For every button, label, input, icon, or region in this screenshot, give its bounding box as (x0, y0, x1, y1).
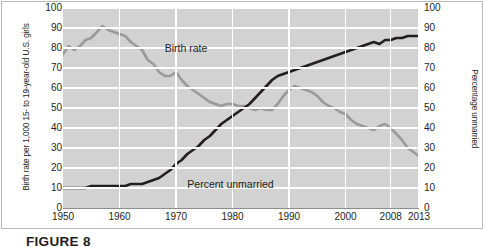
gridline-horizontal (63, 167, 419, 168)
gridline-horizontal (63, 67, 419, 68)
y-tick-left: 70 (28, 63, 62, 73)
gridline-horizontal (63, 47, 419, 48)
x-tick: 1980 (221, 212, 243, 222)
x-axis-line (63, 208, 419, 209)
y-tick-right: 50 (424, 103, 458, 113)
x-tick: 1970 (165, 212, 187, 222)
gridline-vertical (288, 8, 289, 208)
x-tick: 1990 (278, 212, 300, 222)
y-tick-right: 90 (424, 23, 458, 33)
y-tick-left: 10 (28, 183, 62, 193)
y-tick-left: 60 (28, 83, 62, 93)
gridline-horizontal (63, 87, 419, 88)
y-tick-right: 20 (424, 163, 458, 173)
y-tick-right: 30 (424, 143, 458, 153)
gridline-vertical (175, 8, 176, 208)
y-tick-right: 40 (424, 123, 458, 133)
y-axis-label-right-text: Percentage unmarried (470, 69, 479, 148)
figure-caption: FIGURE 8 (26, 234, 91, 247)
gridline-horizontal (63, 8, 419, 9)
figure-root: Birth rate per 1,000 15- to 19-year-old … (0, 0, 486, 247)
gridline-vertical (119, 8, 120, 208)
x-tick: 1950 (52, 212, 74, 222)
series-line (63, 36, 419, 188)
y-tick-left: 20 (28, 163, 62, 173)
series-label: Percent unmarried (187, 178, 273, 190)
gridline-vertical (390, 8, 391, 208)
y-tick-left: 50 (28, 103, 62, 113)
y-tick-left: 30 (28, 143, 62, 153)
gridline-horizontal (63, 147, 419, 148)
y-tick-right: 80 (424, 43, 458, 53)
y-tick-right: 70 (424, 63, 458, 73)
y-tick-left: 80 (28, 43, 62, 53)
x-tick: 1960 (108, 212, 130, 222)
figure-caption-label: FIGURE (26, 234, 79, 247)
y-tick-left: 100 (28, 3, 62, 13)
y-tick-right: 60 (424, 83, 458, 93)
gridline-horizontal (63, 107, 419, 108)
y-tick-right: 100 (424, 3, 458, 13)
gridline-vertical (418, 8, 419, 208)
x-tick: 2008 (380, 212, 402, 222)
x-tick: 2000 (334, 212, 356, 222)
y-tick-left: 90 (28, 23, 62, 33)
gridline-horizontal (63, 27, 419, 28)
figure-caption-number: 8 (83, 234, 91, 247)
y-axis-label-right: Percentage unmarried (469, 29, 479, 189)
y-tick-right: 10 (424, 183, 458, 193)
y-tick-left: 40 (28, 123, 62, 133)
series-label: Birth rate (165, 42, 208, 54)
x-tick: 2013 (408, 212, 430, 222)
gridline-vertical (345, 8, 346, 208)
gridline-horizontal (63, 127, 419, 128)
